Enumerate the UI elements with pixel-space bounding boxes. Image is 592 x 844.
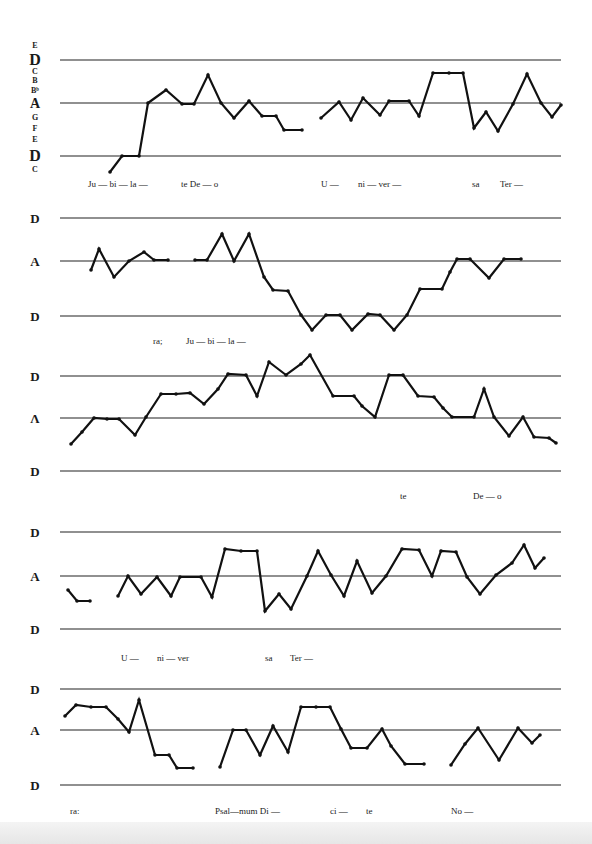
note-point <box>538 733 542 737</box>
melody-contour <box>71 355 556 444</box>
melody-contour <box>321 73 561 131</box>
note-point <box>193 258 197 262</box>
note-point <box>232 259 236 263</box>
note-point <box>387 99 391 103</box>
note-point <box>205 258 209 262</box>
note-point <box>220 232 224 236</box>
note-point <box>547 436 551 440</box>
note-point <box>155 575 159 579</box>
note-point <box>271 724 275 728</box>
note-point <box>403 762 407 766</box>
note-point <box>146 101 150 105</box>
lyric-syllables: Ju — bi — la — <box>186 336 247 346</box>
note-point <box>80 430 84 434</box>
note-point <box>260 114 264 118</box>
note-point <box>174 392 178 396</box>
note-point <box>465 575 469 579</box>
melody-contour <box>91 249 168 277</box>
note-point <box>188 391 192 395</box>
note-point <box>271 288 275 292</box>
pitch-label: Bᵇ <box>31 86 39 95</box>
note-point <box>525 72 529 76</box>
note-point <box>352 394 356 398</box>
note-point <box>432 395 436 399</box>
note-point <box>378 313 382 317</box>
note-point <box>407 99 411 103</box>
note-point <box>284 373 288 377</box>
note-point <box>308 353 312 357</box>
note-point <box>316 549 320 553</box>
note-point <box>468 257 472 261</box>
note-point <box>255 394 259 398</box>
note-point <box>384 574 388 578</box>
pitch-label: A <box>30 569 40 584</box>
lyric-syllables: Ter — <box>500 179 524 189</box>
note-point <box>510 561 514 565</box>
lyric-syllables: te <box>400 491 407 501</box>
note-point <box>487 276 491 280</box>
pitch-label: C <box>32 165 38 174</box>
lyric-syllables: U — <box>121 653 140 663</box>
note-point <box>137 154 141 158</box>
pitch-label: D <box>29 51 41 68</box>
note-point <box>191 766 195 770</box>
note-point <box>338 313 342 317</box>
note-point <box>439 549 443 553</box>
pitch-label: D <box>30 309 39 324</box>
note-point <box>247 99 251 103</box>
note-point <box>116 717 120 721</box>
note-point <box>282 128 286 132</box>
note-point <box>431 71 435 75</box>
note-point <box>484 110 488 114</box>
melodic-contour-chart: EDCBBᵇAGFEDCJu — bi — la —te De — oU —ni… <box>0 0 592 844</box>
note-point <box>63 714 67 718</box>
note-point <box>206 73 210 77</box>
note-point <box>511 102 515 106</box>
note-point <box>472 126 476 130</box>
pitch-label: D <box>30 369 39 384</box>
note-point <box>328 705 332 709</box>
note-point <box>89 705 93 709</box>
note-point <box>255 549 259 553</box>
note-point <box>530 741 534 745</box>
note-point <box>339 727 343 731</box>
note-point <box>262 275 266 279</box>
melody-contour <box>65 700 193 768</box>
note-point <box>361 96 365 100</box>
pitch-label: E <box>32 135 37 144</box>
note-point <box>349 118 353 122</box>
note-point <box>152 258 156 262</box>
pitch-label: D <box>29 147 41 164</box>
lyric-syllables: ra; <box>153 336 163 346</box>
pitch-label: G <box>32 113 38 122</box>
staff-system-2: DADra;Ju — bi — la — <box>30 211 561 346</box>
staff-system-5: DADra:Psal—mum Di —ci —teNo — <box>30 682 561 816</box>
lyric-syllables: Ju — bi — la — <box>88 179 149 189</box>
pitch-label: E <box>32 41 37 50</box>
lyric-syllables: ni — ver — <box>358 179 402 189</box>
note-point <box>169 594 173 598</box>
note-point <box>496 129 500 133</box>
note-point <box>542 556 546 560</box>
note-point <box>416 394 420 398</box>
note-point <box>378 113 382 117</box>
note-point <box>144 415 148 419</box>
note-point <box>300 128 304 132</box>
note-point <box>199 575 203 579</box>
note-point <box>430 574 434 578</box>
note-point <box>370 591 374 595</box>
note-point <box>554 441 558 445</box>
note-point <box>417 114 421 118</box>
note-point <box>226 372 230 376</box>
note-point <box>223 547 227 551</box>
note-point <box>88 599 92 603</box>
pitch-label: D <box>30 211 39 226</box>
note-point <box>331 394 335 398</box>
note-point <box>167 753 171 757</box>
note-point <box>507 434 511 438</box>
pitch-label: B <box>32 76 38 85</box>
pitch-label: D <box>30 622 39 637</box>
note-point <box>133 433 137 437</box>
note-point <box>180 102 184 106</box>
note-point <box>449 763 453 767</box>
